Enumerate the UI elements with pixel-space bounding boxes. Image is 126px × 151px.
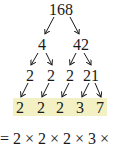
node-level2: 21: [83, 68, 99, 84]
node-level2: 2: [66, 68, 74, 84]
prime-factor: 2: [16, 100, 24, 116]
node-level2: 2: [26, 68, 34, 84]
node-level1: 42: [73, 37, 89, 53]
node-level1: 4: [38, 37, 46, 53]
root-number: 168: [49, 2, 73, 18]
prime-factor: 7: [96, 100, 104, 116]
node-level2: 2: [47, 68, 55, 84]
prime-factor: 2: [56, 100, 64, 116]
prime-factor: 2: [37, 100, 45, 116]
product-equation: = 2 × 2 × 2 × 3 ×: [0, 131, 109, 147]
tree-arrows: [0, 0, 126, 151]
prime-factor: 3: [76, 100, 84, 116]
